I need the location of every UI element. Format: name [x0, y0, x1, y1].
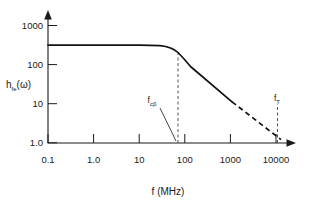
y-axis-title-tail: (ω): [17, 79, 31, 90]
y-tick-label-100: 100: [27, 59, 43, 70]
y-tick-label-10: 10: [32, 98, 43, 109]
x-tick-label-1000: 1000: [220, 154, 241, 165]
annotation-transition-frequency: fT: [274, 93, 280, 105]
y-tick-label-1000: 1000: [22, 20, 43, 31]
x-tick-label-1: 1.0: [87, 154, 100, 165]
x-tick-label-0-1: 0.1: [41, 154, 54, 165]
chart-figure: 1000 100 10 1.0 0.1 1.0 10 100 1000 1000…: [0, 0, 315, 212]
leader-line-corner-frequency: [160, 108, 176, 141]
x-tick-label-100: 100: [177, 154, 193, 165]
chart-canvas: 1000 100 10 1.0 0.1 1.0 10 100 1000 1000…: [0, 0, 315, 212]
x-tick-label-10: 10: [134, 154, 145, 165]
x-axis-title: f (MHz): [152, 186, 185, 197]
x-tick-label-10000: 10000: [263, 154, 289, 165]
y-axis-arrow-icon: [44, 10, 52, 20]
x-axis-arrow-icon: [287, 139, 297, 147]
annotation-corner-frequency: fcβ: [148, 95, 157, 107]
curve-dashed-segment: [232, 102, 281, 140]
curve-solid-segment: [48, 45, 232, 102]
annotation-corner-subscript: cβ: [150, 101, 157, 107]
y-axis-ticks: [48, 26, 57, 143]
annotation-transition-subscript: T: [276, 99, 280, 105]
x-axis-ticks: [48, 134, 276, 143]
y-axis-title: hfe(ω): [6, 79, 31, 92]
y-tick-label-1: 1.0: [30, 137, 43, 148]
